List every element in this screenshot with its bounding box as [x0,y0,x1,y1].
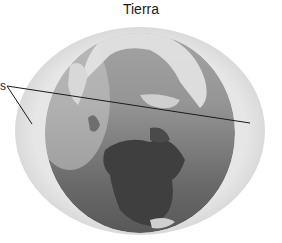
callout-label: s [0,79,6,93]
earth-diagram [0,0,282,243]
